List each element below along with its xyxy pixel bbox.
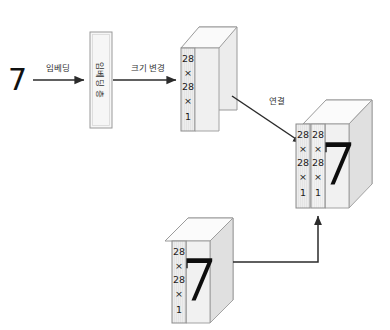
reshaped-dim-0: 28: [182, 53, 194, 64]
concat-front-dim-2: 28: [297, 157, 309, 168]
image-dim-0: 28: [173, 246, 185, 257]
image-dim-2: 28: [173, 274, 185, 285]
concat-front-dim-1: ×: [299, 143, 307, 154]
concat-back-dim-2: 28: [312, 157, 324, 168]
image-dim-4: 1: [176, 304, 182, 315]
figure-caption: [0, 322, 390, 330]
concat-back-dim-1: ×: [314, 143, 322, 154]
arrow-image-to-concat: [233, 216, 318, 262]
image-dim-3: ×: [175, 288, 183, 299]
reshaped-dim-4: 1: [185, 111, 191, 122]
arrow-embedding-label: 임베딩: [46, 63, 70, 73]
embedding-layer-label-wrap: 임베딩 층: [90, 32, 112, 128]
reshaped-embedding-tensor: 28 × 28 × 1: [181, 27, 237, 131]
diagram-svg: 7 임베딩 크기 변경 28 × 28 ×: [0, 0, 390, 330]
concat-back-dim-3: ×: [314, 171, 322, 182]
concat-back-dim-0: 28: [312, 129, 324, 140]
concat-front-dim-4: 1: [300, 187, 306, 198]
input-image-tensor: 7 28 × 28 × 1: [165, 218, 233, 323]
concat-back-dim-4: 1: [315, 187, 321, 198]
image-dim-1: ×: [175, 260, 183, 271]
reshaped-dim-2: 28: [182, 81, 194, 92]
input-digit-glyph: 7: [8, 62, 27, 97]
arrow-concat: [232, 96, 302, 143]
embedding-layer-label: 임베딩 층: [95, 62, 107, 98]
diagram-canvas: 7 임베딩 크기 변경 28 × 28 ×: [0, 0, 390, 330]
reshaped-dim-3: ×: [184, 95, 192, 106]
concat-front-dim-3: ×: [299, 171, 307, 182]
arrow-reshape-label: 크기 변경: [131, 63, 166, 73]
concat-front-dim-0: 28: [297, 129, 309, 140]
reshaped-dim-1: ×: [184, 67, 192, 78]
concat-output-tensor: 7 28 × 28 × 1 28 × 28 × 1: [296, 100, 372, 208]
arrow-concat-label: 연결: [269, 96, 285, 106]
